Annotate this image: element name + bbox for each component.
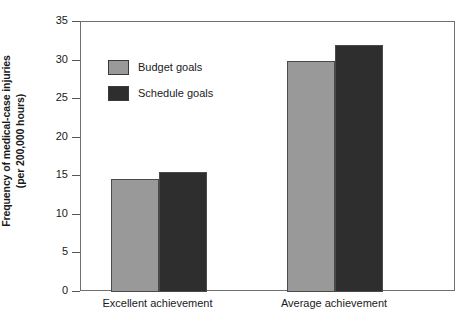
bar-average-achievement-schedule-goals [335,45,383,292]
y-axis-title-line1: Frequency of medical-case injuries [0,55,12,227]
bar-excellent-achievement-budget-goals [111,179,159,292]
y-axis-tick-0 [72,291,80,292]
y-axis-tick-35 [72,21,80,22]
bar-average-achievement-budget-goals [287,61,335,292]
y-axis-tick-label-35: 35 [44,15,68,26]
y-axis-tick-25 [72,98,80,99]
y-axis-tick-label-20: 20 [44,131,68,142]
x-axis-label-average-achievement: Average achievement [254,297,414,309]
legend-swatch-schedule-goals [108,86,129,101]
chart-legend: Budget goals Schedule goals [108,56,213,108]
y-axis-tick-label-25: 25 [44,92,68,103]
bar-chart: Frequency of medical-case injuries (per … [0,0,468,320]
y-axis-tick-20 [72,137,80,138]
y-axis-tick-10 [72,214,80,215]
legend-item-budget-goals: Budget goals [108,56,213,78]
legend-item-schedule-goals: Schedule goals [108,82,213,104]
y-axis-tick-label-0: 0 [44,285,68,296]
y-axis-tick-15 [72,175,80,176]
y-axis-title: Frequency of medical-case injuries (per … [0,0,46,300]
x-axis-label-excellent-achievement: Excellent achievement [78,297,238,309]
y-axis-tick-label-10: 10 [44,208,68,219]
y-axis-tick-label-30: 30 [44,54,68,65]
y-axis-tick-5 [72,252,80,253]
y-axis-tick-label-15: 15 [44,169,68,180]
legend-label-budget-goals: Budget goals [138,61,202,73]
legend-label-schedule-goals: Schedule goals [138,87,213,99]
y-axis-title-line2: (per 200,000 hours) [14,0,28,282]
bar-excellent-achievement-schedule-goals [159,172,207,292]
legend-swatch-budget-goals [108,60,129,75]
y-axis-tick-30 [72,60,80,61]
y-axis-tick-label-5: 5 [44,246,68,257]
